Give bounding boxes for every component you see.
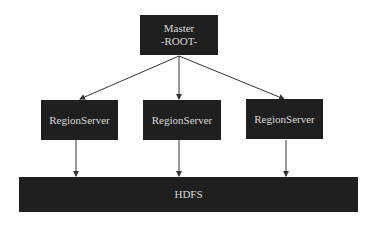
region-server-node: RegionServer: [143, 100, 221, 140]
master-node: Master -ROOT-: [140, 15, 218, 55]
hdfs-node: HDFS: [19, 177, 358, 212]
edge-master-rs3: [179, 56, 284, 99]
master-sublabel: -ROOT-: [161, 35, 197, 48]
region-server-label: RegionServer: [152, 114, 212, 127]
region-server-node: RegionServer: [41, 100, 118, 140]
hdfs-label: HDFS: [174, 188, 202, 201]
region-server-node: RegionServer: [246, 99, 323, 139]
region-server-label: RegionServer: [49, 114, 109, 127]
region-server-label: RegionServer: [254, 113, 314, 126]
edge-master-rs1: [80, 56, 179, 99]
architecture-diagram: Master -ROOT- RegionServer RegionServer …: [0, 0, 371, 229]
master-label: Master: [164, 22, 195, 35]
